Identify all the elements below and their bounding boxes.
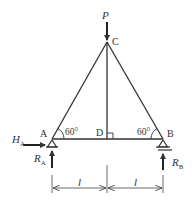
angle-arc-A	[58, 129, 64, 139]
angle-B-label: 60°	[137, 127, 151, 137]
reaction-HA-label: HA	[11, 133, 25, 148]
angle-A-label: 60°	[65, 127, 79, 137]
roller-support-B	[156, 140, 172, 150]
dimension-DB-label: l	[134, 176, 137, 188]
truss-members	[52, 42, 163, 139]
load-P-label: P	[101, 9, 109, 21]
node-A-label: A	[40, 128, 48, 139]
reaction-RA-label: RA	[33, 152, 46, 167]
reaction-RB-label: RB	[171, 156, 184, 171]
truss-diagram: P C A D B 60° 60° HA RA RB l l	[0, 0, 192, 214]
node-D-label: D	[96, 127, 103, 138]
right-angle-icon	[107, 133, 113, 139]
angle-arc-B	[151, 129, 157, 139]
node-B-label: B	[167, 128, 174, 139]
member-BC	[107, 42, 163, 139]
pin-support-A	[46, 140, 58, 147]
member-AC	[52, 42, 107, 139]
node-C-label: C	[112, 36, 119, 47]
dimension-AD-label: l	[78, 176, 81, 188]
dimension-lines	[52, 165, 163, 193]
